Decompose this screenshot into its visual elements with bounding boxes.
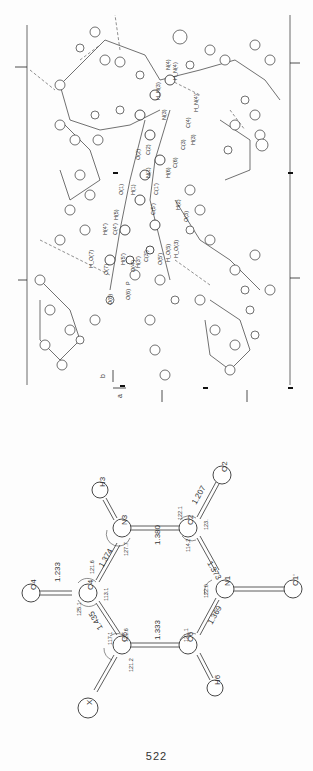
svg-text:117.1: 117.1 (107, 632, 113, 645)
crystal-packing-figure: b a (0, 0, 313, 410)
svg-text:121.6: 121.6 (89, 560, 95, 574)
page-number: 522 (0, 750, 313, 762)
svg-text:H_N(4): H_N(4) (172, 62, 178, 80)
svg-text:1.380: 1.380 (153, 524, 162, 545)
svg-text:123.: 123. (203, 519, 209, 530)
svg-text:a: a (116, 394, 123, 398)
svg-text:O(4'): O(4') (130, 260, 136, 272)
svg-text:b: b (99, 374, 106, 378)
svg-text:C(4'): C(4') (112, 223, 118, 235)
svg-text:1.233: 1.233 (53, 561, 62, 582)
svg-text:H6: H6 (213, 674, 222, 685)
svg-text:121.1: 121.1 (183, 628, 189, 642)
svg-text:O(8): O(8) (107, 294, 113, 305)
svg-text:O(3): O(3) (183, 211, 189, 222)
svg-text:N(1): N(1) (145, 167, 151, 178)
svg-text:1.333: 1.333 (153, 619, 162, 640)
svg-text:113.1: 113.1 (103, 588, 109, 601)
svg-text:C(4): C(4) (185, 117, 191, 128)
svg-text:H(4'): H(4') (102, 223, 108, 235)
svg-text:121.6: 121.6 (123, 628, 129, 642)
svg-text:C(2): C(2) (145, 144, 151, 155)
svg-text:N1: N1 (223, 575, 232, 586)
svg-text:H(5): H(5) (113, 209, 119, 220)
svg-text:O(2): O(2) (135, 149, 141, 160)
svg-text:C(3'): C(3') (143, 250, 149, 262)
svg-text:O(7): O(7) (103, 264, 109, 275)
svg-text:H_O(3): H_O(3) (173, 240, 179, 258)
svg-text:C4: C4 (86, 579, 95, 590)
svg-text:C(1'): C(1') (153, 183, 159, 195)
svg-text:1.369: 1.369 (206, 604, 224, 626)
svg-text:X: X (85, 699, 94, 705)
svg-text:O(6): O(6) (125, 289, 131, 300)
svg-text:C(5'): C(5') (150, 203, 156, 215)
svg-text:O(5'): O(5') (157, 253, 163, 265)
document-page: b a (0, 0, 313, 771)
svg-text:C(3): C(3) (180, 139, 186, 150)
pyrimidine-bond-schematic: O4 C4 N3 H3 C2 O2 N1 C1' C6 H6 C5 X 1.23… (0, 400, 313, 730)
svg-text:H(3): H(3) (190, 134, 196, 145)
svg-text:C2: C2 (186, 514, 195, 525)
svg-text:H(1): H(1) (130, 184, 136, 195)
svg-text:H_N(3): H_N(3) (155, 82, 161, 100)
svg-text:1.373: 1.373 (205, 560, 223, 582)
svg-text:P: P (125, 281, 131, 285)
svg-text:127.7: 127.7 (123, 542, 129, 556)
svg-text:H(6): H(6) (165, 167, 171, 178)
svg-text:C(6): C(6) (172, 157, 178, 168)
svg-text:N3: N3 (120, 514, 129, 525)
svg-text:H(2): H(2) (175, 199, 181, 210)
svg-text:O4: O4 (29, 579, 38, 590)
svg-text:H_O(5): H_O(5) (165, 244, 171, 262)
svg-text:1.207: 1.207 (190, 484, 208, 506)
svg-text:H_O(7): H_O(7) (88, 250, 94, 268)
svg-text:114.2: 114.2 (185, 539, 191, 552)
axes-indicator: b a (99, 370, 126, 398)
svg-text:N(3): N(3) (161, 109, 167, 120)
svg-text:125.1: 125.1 (76, 602, 82, 616)
svg-text:H3: H3 (98, 476, 107, 487)
svg-text:H_N(4)': H_N(4)' (193, 93, 199, 112)
svg-text:H(5'): H(5') (120, 253, 126, 265)
svg-text:N(4): N(4) (165, 59, 171, 70)
svg-text:O(1): O(1) (118, 184, 124, 195)
svg-text:122.0: 122.0 (203, 584, 209, 598)
svg-text:O2: O2 (220, 461, 229, 472)
svg-text:C1': C1' (291, 574, 300, 586)
svg-text:121.2: 121.2 (128, 658, 134, 672)
svg-text:122.1: 122.1 (177, 506, 183, 520)
